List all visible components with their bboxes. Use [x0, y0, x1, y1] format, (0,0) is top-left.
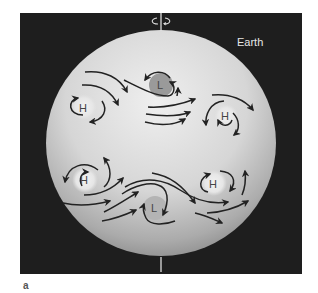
low-pressure-letter: L	[151, 202, 157, 214]
high-pressure-letter: H	[221, 110, 229, 122]
earth-label: Earth	[237, 36, 263, 48]
earth-sphere	[46, 30, 276, 256]
high-pressure-letter: H	[80, 174, 88, 186]
high-pressure-letter: H	[79, 102, 87, 114]
rotation-arrow-icon	[152, 13, 170, 31]
low-pressure-letter: L	[157, 79, 163, 91]
earth-circulation-diagram: H L H H L	[0, 0, 318, 293]
panel-label: a	[23, 280, 29, 291]
high-pressure-letter: H	[209, 178, 217, 190]
